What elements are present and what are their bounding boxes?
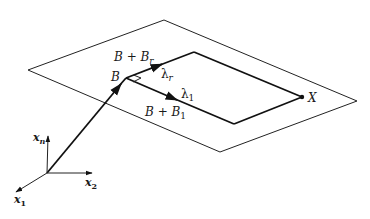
point-x — [300, 95, 304, 99]
label-lambda-r: λr — [161, 67, 174, 83]
diagram-canvas: B + Br B λr λ1 B + B1 X xn x2 x1 — [0, 0, 370, 219]
edge-top-to-x — [194, 52, 302, 97]
edge-lambda-r-cont — [160, 52, 194, 65]
edge-lambda-r — [126, 64, 162, 78]
right-angle-marker — [133, 75, 141, 82]
label-b: B — [110, 70, 120, 84]
label-lambda-1: λ1 — [181, 87, 194, 103]
position-vector-b — [47, 84, 121, 173]
axis-xn — [47, 136, 48, 173]
label-axis-xn: xn — [32, 131, 46, 146]
position-vector-b-cont — [119, 78, 126, 86]
edge-bottom-to-x — [234, 97, 302, 124]
label-axis-x1: x1 — [13, 193, 26, 208]
label-b-plus-br: B + Br — [113, 50, 154, 66]
label-x-point: X — [307, 91, 317, 105]
label-axis-x2: x2 — [84, 176, 97, 191]
axis-x1 — [16, 173, 47, 192]
outer-plane — [28, 20, 357, 152]
label-b-plus-b1: B + B1 — [144, 105, 186, 121]
